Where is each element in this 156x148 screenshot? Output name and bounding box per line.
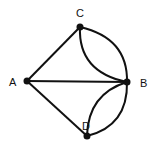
edge-a-d [27, 81, 87, 136]
node-c [77, 24, 84, 31]
node-a [24, 78, 31, 85]
label-c: C [76, 7, 84, 19]
node-d [84, 133, 91, 140]
label-a: A [9, 76, 17, 88]
edges [27, 27, 127, 136]
graph-diagram: A B C D [0, 0, 156, 148]
label-b: B [140, 77, 147, 89]
edge-a-c [27, 27, 80, 81]
node-b [124, 79, 131, 86]
edge-a-b [27, 81, 127, 82]
label-d: D [82, 120, 90, 132]
